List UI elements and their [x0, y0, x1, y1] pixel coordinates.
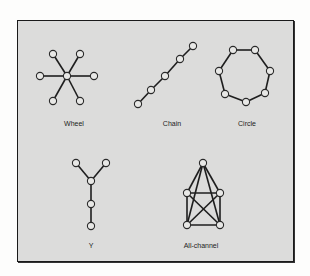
node — [76, 50, 83, 57]
node — [134, 100, 141, 107]
network-chain — [134, 42, 196, 107]
node — [49, 97, 56, 104]
label-chain: Chain — [163, 120, 181, 127]
network-wheel — [36, 50, 97, 104]
label-circle: Circle — [238, 120, 256, 127]
node — [199, 159, 206, 166]
node — [87, 200, 94, 207]
node — [49, 50, 56, 57]
node — [266, 67, 273, 74]
node — [216, 221, 223, 228]
edge — [67, 76, 80, 101]
node — [183, 221, 190, 228]
node — [102, 159, 109, 166]
node — [87, 222, 94, 229]
node — [229, 46, 236, 53]
node — [147, 86, 154, 93]
node — [183, 189, 190, 196]
node — [63, 72, 70, 79]
network-circle — [215, 46, 273, 105]
node — [72, 159, 79, 166]
network-all-channel — [183, 159, 223, 228]
label-y: Y — [89, 242, 94, 249]
node — [261, 89, 268, 96]
node — [221, 90, 228, 97]
edge — [187, 163, 203, 193]
label-all-channel: All-channel — [184, 242, 219, 249]
edge — [53, 76, 67, 101]
edge — [203, 163, 220, 193]
node — [189, 42, 196, 49]
node — [216, 189, 223, 196]
network-y — [72, 159, 109, 229]
network-diagrams — [0, 0, 310, 276]
node — [215, 67, 222, 74]
label-wheel: Wheel — [64, 120, 84, 127]
node — [87, 177, 94, 184]
node — [251, 46, 258, 53]
node — [161, 72, 168, 79]
node — [36, 72, 43, 79]
node — [176, 55, 183, 62]
node — [242, 98, 249, 105]
node — [76, 97, 83, 104]
node — [90, 72, 97, 79]
